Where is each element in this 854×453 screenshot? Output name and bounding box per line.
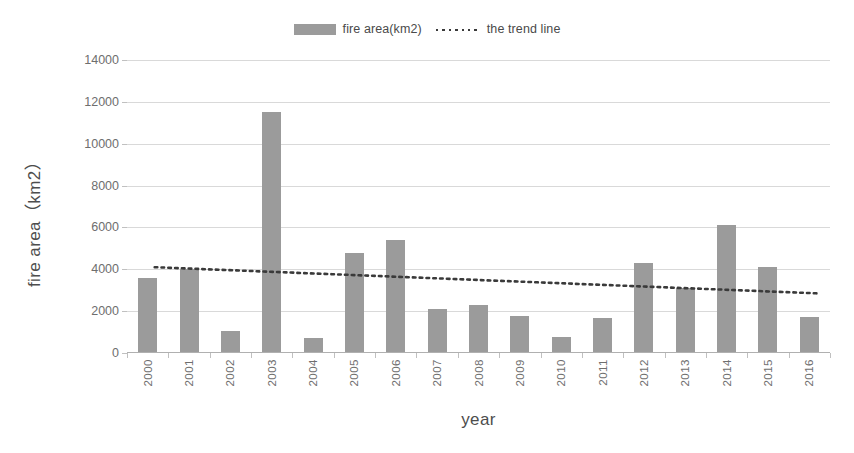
y-tick-mark — [122, 311, 127, 312]
y-tick-label: 12000 — [84, 95, 119, 109]
x-tick-mark — [292, 353, 293, 358]
y-tick-mark — [122, 227, 127, 228]
bar-2002 — [221, 331, 240, 353]
y-tick-label: 8000 — [91, 179, 119, 193]
bar-swatch-icon — [294, 24, 336, 35]
x-tick-mark — [210, 353, 211, 358]
gridline — [127, 186, 830, 187]
x-tick-label-2000: 2000 — [142, 359, 154, 387]
fire-area-bar-chart: fire area(km2) the trend line fire area（… — [0, 0, 854, 453]
x-tick-label-2002: 2002 — [224, 359, 236, 387]
x-tick-mark — [127, 353, 128, 358]
bar-2015 — [758, 267, 777, 353]
bar-2009 — [510, 316, 529, 353]
x-tick-label-2008: 2008 — [473, 359, 485, 387]
bar-2011 — [593, 318, 612, 353]
x-tick-mark — [665, 353, 666, 358]
y-tick-label: 14000 — [84, 53, 119, 67]
y-tick-mark — [122, 60, 127, 61]
x-tick-mark — [830, 353, 831, 358]
x-tick-label-2014: 2014 — [721, 359, 733, 387]
x-tick-label-2010: 2010 — [555, 359, 567, 387]
legend-label-fire-area: fire area(km2) — [343, 22, 422, 36]
legend-label-trend-line: the trend line — [487, 22, 561, 36]
plot-area: 02000400060008000100001200014000 2000200… — [127, 60, 830, 353]
x-tick-mark — [541, 353, 542, 358]
x-tick-mark — [499, 353, 500, 358]
y-tick-label: 0 — [112, 346, 119, 360]
x-tick-label-2012: 2012 — [638, 359, 650, 387]
x-tick-label-2001: 2001 — [183, 359, 195, 387]
x-tick-label-2004: 2004 — [307, 359, 319, 387]
x-tick-label-2011: 2011 — [597, 359, 609, 386]
x-tick-mark — [458, 353, 459, 358]
bar-2001 — [180, 269, 199, 353]
dotted-line-swatch-icon — [436, 24, 480, 35]
bar-2000 — [138, 278, 157, 353]
bar-2016 — [800, 317, 819, 353]
y-axis-title: fire area（km2） — [14, 120, 54, 320]
bar-2003 — [262, 112, 281, 353]
y-tick-label: 10000 — [84, 137, 119, 151]
x-tick-mark — [251, 353, 252, 358]
y-tick-label: 2000 — [91, 304, 119, 318]
x-tick-label-2003: 2003 — [266, 359, 278, 387]
x-axis-line — [127, 352, 830, 353]
legend-entry-fire-area: fire area(km2) — [294, 22, 422, 36]
y-tick-label: 6000 — [91, 220, 119, 234]
x-tick-mark — [334, 353, 335, 358]
gridline — [127, 144, 830, 145]
x-tick-label-2015: 2015 — [762, 359, 774, 387]
x-tick-label-2009: 2009 — [514, 359, 526, 387]
bar-2006 — [386, 240, 405, 353]
x-tick-mark — [706, 353, 707, 358]
y-tick-mark — [122, 144, 127, 145]
chart-legend: fire area(km2) the trend line — [0, 22, 854, 36]
y-tick-mark — [122, 186, 127, 187]
legend-entry-trend-line: the trend line — [436, 22, 561, 36]
bar-2007 — [428, 309, 447, 353]
x-tick-mark — [623, 353, 624, 358]
x-tick-label-2005: 2005 — [348, 359, 360, 387]
x-tick-label-2013: 2013 — [679, 359, 691, 387]
x-tick-mark — [416, 353, 417, 358]
y-tick-mark — [122, 269, 127, 270]
x-tick-mark — [168, 353, 169, 358]
bar-2014 — [717, 225, 736, 353]
bar-2008 — [469, 305, 488, 353]
bar-2013 — [676, 288, 695, 353]
bar-2004 — [304, 338, 323, 353]
bar-2012 — [634, 263, 653, 353]
x-tick-label-2007: 2007 — [431, 359, 443, 387]
x-tick-mark — [789, 353, 790, 358]
x-tick-label-2006: 2006 — [390, 359, 402, 387]
y-tick-mark — [122, 102, 127, 103]
x-tick-mark — [747, 353, 748, 358]
bar-2010 — [552, 337, 571, 353]
x-axis-title: year — [127, 410, 830, 430]
x-tick-mark — [582, 353, 583, 358]
y-tick-label: 4000 — [91, 262, 119, 276]
gridline — [127, 102, 830, 103]
gridline — [127, 60, 830, 61]
x-tick-mark — [375, 353, 376, 358]
x-tick-label-2016: 2016 — [803, 359, 815, 387]
bar-2005 — [345, 253, 364, 353]
